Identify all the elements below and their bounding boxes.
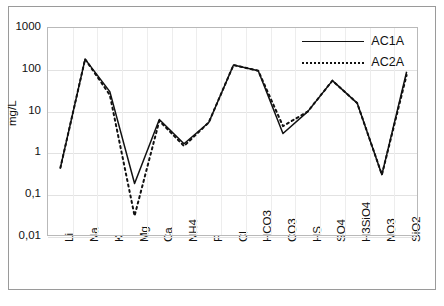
chart-figure: mg/L 10001001010,10,01 LiNaKMgCaNH4FClHC… bbox=[0, 0, 444, 306]
legend-label-ac2a: AC2A bbox=[371, 55, 404, 69]
legend-label-ac1a: AC1A bbox=[371, 34, 404, 48]
legend-swatch-dotted-icon bbox=[302, 62, 364, 64]
series-line-ac2a bbox=[60, 59, 406, 216]
series-line-ac1a bbox=[60, 59, 406, 183]
y-axis-tick-label: 100 bbox=[0, 63, 41, 75]
y-axis-tick-label: 10 bbox=[0, 105, 41, 117]
legend: AC1A AC2A bbox=[274, 31, 406, 73]
legend-swatch-solid-icon bbox=[302, 41, 364, 42]
gridline-horizontal bbox=[48, 237, 417, 238]
y-axis-tick-label: 0,1 bbox=[0, 188, 41, 200]
legend-entry-ac2a: AC2A bbox=[274, 52, 406, 73]
y-axis-tick-label: 1 bbox=[0, 147, 41, 159]
y-axis-tick-label: 1000 bbox=[0, 21, 41, 33]
legend-entry-ac1a: AC1A bbox=[274, 31, 406, 52]
y-axis-tick-label: 0,01 bbox=[0, 230, 41, 242]
